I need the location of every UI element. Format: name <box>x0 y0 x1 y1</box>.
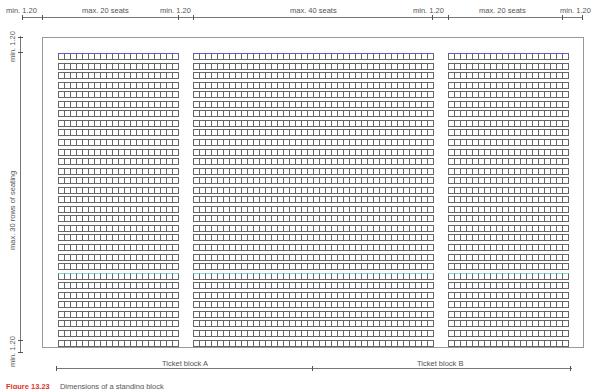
seat-row <box>58 63 179 69</box>
seat <box>172 82 179 89</box>
seat-row <box>193 72 434 78</box>
seat-row <box>193 320 434 326</box>
seat <box>427 63 434 70</box>
seat-row <box>58 196 179 202</box>
seat-row <box>193 244 434 250</box>
seat <box>427 101 434 108</box>
seat <box>172 63 179 70</box>
seat-row <box>448 149 569 155</box>
seat-row <box>193 149 434 155</box>
seat-row <box>448 292 569 298</box>
seat <box>562 330 569 337</box>
seat <box>427 91 434 98</box>
top-dimension-label: min. 1.20 <box>6 6 37 15</box>
top-tick <box>582 15 583 20</box>
seat-row <box>448 215 569 221</box>
seat-row <box>448 63 569 69</box>
seat-row <box>193 206 434 212</box>
seat <box>562 263 569 270</box>
top-tick <box>562 15 563 20</box>
seat <box>172 340 179 347</box>
seat <box>427 225 434 232</box>
seat-row <box>448 225 569 231</box>
seat <box>427 206 434 213</box>
left-rows-label: max. 30 rows of seating <box>8 171 17 250</box>
seat <box>172 101 179 108</box>
seat <box>427 139 434 146</box>
seat <box>562 234 569 241</box>
figure-caption-text: Dimensions of a standing block <box>60 382 164 389</box>
seat-row <box>193 273 434 279</box>
left-min-bottom-label: min. 1.20 <box>8 336 17 367</box>
seat <box>427 330 434 337</box>
seat-row <box>193 187 434 193</box>
seat-row <box>448 72 569 78</box>
seat-row <box>58 311 179 317</box>
seat <box>427 282 434 289</box>
seat <box>562 91 569 98</box>
seat-row <box>448 168 569 174</box>
seat-row <box>193 340 434 346</box>
seat-row <box>58 149 179 155</box>
seat <box>427 177 434 184</box>
seat-row <box>58 168 179 174</box>
seat <box>427 320 434 327</box>
seat <box>172 273 179 280</box>
seat-row <box>448 263 569 269</box>
seat-row <box>448 139 569 145</box>
seat <box>172 53 179 60</box>
seat <box>172 129 179 136</box>
seat-row <box>58 215 179 221</box>
seat-row <box>58 273 179 279</box>
ticket-block-a-label: Ticket block A <box>162 359 208 368</box>
seat <box>172 72 179 79</box>
seat <box>172 225 179 232</box>
seat <box>562 311 569 318</box>
seat-row <box>448 101 569 107</box>
seat <box>427 187 434 194</box>
seat <box>172 177 179 184</box>
seat-row <box>193 282 434 288</box>
seat-row <box>448 158 569 164</box>
seat <box>427 254 434 261</box>
seat-row <box>193 177 434 183</box>
top-dimension-label: max. 40 seats <box>290 6 337 15</box>
seat <box>172 196 179 203</box>
seat <box>427 234 434 241</box>
seat-row <box>448 129 569 135</box>
seat <box>172 301 179 308</box>
seat-row <box>58 225 179 231</box>
top-dimension-label: min. 1.20 <box>160 6 191 15</box>
seat <box>427 53 434 60</box>
seat <box>172 311 179 318</box>
seat <box>427 196 434 203</box>
seat-row <box>58 129 179 135</box>
seat <box>427 129 434 136</box>
seat <box>562 82 569 89</box>
seat <box>562 196 569 203</box>
seat <box>427 149 434 156</box>
seat-row <box>448 234 569 240</box>
seat-row <box>58 263 179 269</box>
seat <box>562 149 569 156</box>
seat <box>172 320 179 327</box>
seat-row <box>58 187 179 193</box>
seat-row <box>448 320 569 326</box>
seat <box>562 110 569 117</box>
seat <box>172 244 179 251</box>
seat <box>562 282 569 289</box>
seat <box>172 254 179 261</box>
seat <box>562 225 569 232</box>
seat <box>172 215 179 222</box>
left-min-top-label: min. 1.20 <box>8 31 17 62</box>
seat-row <box>193 301 434 307</box>
figure-caption: Figure 13.23 Dimensions of a standing bl… <box>6 382 164 389</box>
bottom-tick <box>570 366 571 371</box>
seat <box>562 273 569 280</box>
seat <box>427 168 434 175</box>
seat-row <box>193 53 434 59</box>
seat-row <box>448 282 569 288</box>
seat-row <box>193 101 434 107</box>
seat <box>427 215 434 222</box>
top-dimension-label: min. 1.20 <box>560 6 591 15</box>
